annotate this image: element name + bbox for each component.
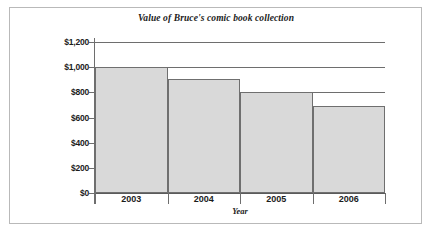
x-axis-title: Year <box>95 206 385 216</box>
gridline-1200 <box>95 42 385 43</box>
y-axis-tick-label: $1,200 <box>27 37 89 47</box>
x-axis-tick-label-2003: 2003 <box>95 194 168 204</box>
x-axis-tick-label-2005: 2005 <box>240 194 313 204</box>
y-axis-tick-label: $400 <box>27 138 89 148</box>
bar-2003 <box>95 67 168 193</box>
y-axis-tick-label: $0 <box>27 188 89 198</box>
x-axis-tick-label-2004: 2004 <box>168 194 241 204</box>
y-axis-tick-label: $800 <box>27 87 89 97</box>
plot-area <box>95 42 385 193</box>
y-axis-tick-label: $200 <box>27 163 89 173</box>
bar-2004 <box>168 79 241 194</box>
bar-2005 <box>240 92 313 193</box>
chart-figure: Value of Bruce's comic book collection $… <box>0 0 432 235</box>
y-axis-tick-label: $600 <box>27 113 89 123</box>
y-axis-tick-label: $1,000 <box>27 62 89 72</box>
chart-title: Value of Bruce's comic book collection <box>0 13 432 23</box>
x-axis-separator <box>385 193 386 204</box>
x-axis-tick-label-2006: 2006 <box>313 194 386 204</box>
bar-2006 <box>313 106 386 193</box>
